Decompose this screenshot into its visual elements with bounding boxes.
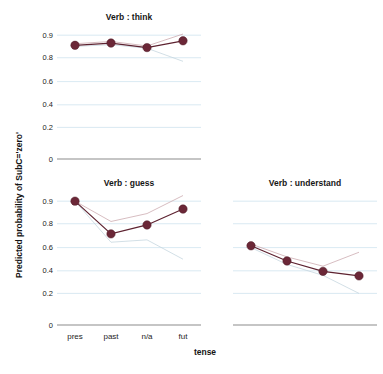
- ytick-guess-0.2: 0.2: [43, 289, 53, 298]
- ytick-think-0.2: 0.2: [43, 123, 53, 132]
- panel-title-guess: Verb : guess: [104, 178, 155, 188]
- panel-understand-point-fut[interactable]: [355, 272, 363, 280]
- ytick-guess-0.6: 0.6: [43, 243, 53, 252]
- y-axis-title: Predicted probability of SubC='zero': [14, 132, 24, 278]
- ytick-think-0.9: 0.9: [43, 31, 53, 40]
- ytick-guess-0.9: 0.9: [43, 197, 53, 206]
- panel-think-point-n/a[interactable]: [143, 43, 151, 51]
- ytick-guess-0.4: 0.4: [43, 266, 53, 275]
- panel-understand-point-past[interactable]: [283, 257, 291, 265]
- panel-understand-point-pres[interactable]: [247, 242, 255, 250]
- panel-title-understand: Verb : understand: [269, 178, 341, 188]
- panel-guess-upper-band: [75, 196, 183, 222]
- panel-think-lower-band: [75, 45, 183, 62]
- ytick-guess-0.8: 0.8: [43, 219, 53, 228]
- ytick-think-0: 0: [49, 155, 53, 164]
- xtick-n/a: n/a: [141, 332, 153, 341]
- ytick-guess-0: 0: [49, 321, 53, 330]
- panel-think-point-pres[interactable]: [71, 41, 79, 49]
- panel-title-think: Verb : think: [106, 12, 153, 22]
- ytick-think-0.8: 0.8: [43, 53, 53, 62]
- panel-guess-point-pres[interactable]: [71, 197, 79, 205]
- panel-guess-point-n/a[interactable]: [143, 221, 151, 229]
- panel-understand-point-n/a[interactable]: [319, 267, 327, 275]
- panel-understand-series-line: [251, 246, 359, 276]
- panel-think-point-fut[interactable]: [179, 37, 187, 45]
- xtick-fut: fut: [179, 332, 189, 341]
- xtick-pres: pres: [67, 332, 83, 341]
- panel-guess-point-fut[interactable]: [179, 205, 187, 213]
- panel-guess-lower-band: [75, 201, 183, 259]
- panel-think-point-past[interactable]: [107, 39, 115, 47]
- trellis-chart-figure: Verb : think00.20.40.60.80.9Verb : guess…: [0, 0, 383, 374]
- chart-canvas: Verb : think00.20.40.60.80.9Verb : guess…: [0, 0, 383, 374]
- xtick-past: past: [103, 332, 119, 341]
- x-axis-title: tense: [194, 347, 216, 357]
- panel-guess-point-past[interactable]: [107, 230, 115, 238]
- ytick-think-0.6: 0.6: [43, 77, 53, 86]
- ytick-think-0.4: 0.4: [43, 100, 53, 109]
